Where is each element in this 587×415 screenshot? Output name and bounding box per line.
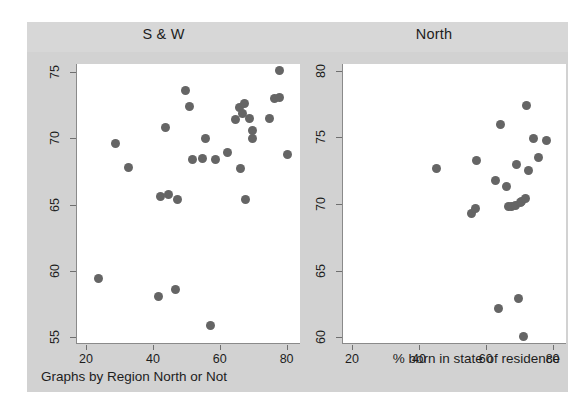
panel-title-1: S & W [27, 26, 300, 42]
plot-area-2 [342, 64, 566, 344]
data-point [154, 292, 163, 301]
x-tick-mark [419, 345, 420, 350]
x-tick-mark [352, 345, 353, 350]
y-tick-label: 60 [314, 324, 328, 350]
figure-note: Graphs by Region North or Not [41, 369, 227, 384]
y-tick-mark [70, 138, 76, 139]
data-point [223, 148, 232, 157]
data-point [432, 164, 441, 173]
y-tick-mark [336, 271, 342, 272]
y-tick-label: 80 [314, 58, 328, 84]
y-tick-mark [336, 337, 342, 338]
x-tick-mark [153, 345, 154, 350]
data-point [472, 156, 481, 165]
data-point [161, 123, 170, 132]
y-tick-label: 65 [48, 192, 62, 218]
y-tick-mark [70, 337, 76, 338]
panel-title-band-1: S & W [27, 22, 300, 52]
data-point [240, 99, 249, 108]
data-point [185, 102, 194, 111]
data-point [534, 153, 543, 162]
x-axis-title: % born in state of residence [393, 351, 560, 366]
data-point [502, 182, 511, 191]
graph-region: S & W556065707520406080North606570758020… [27, 22, 568, 392]
data-point [521, 194, 530, 203]
x-tick-label: 60 [205, 352, 235, 366]
y-tick-mark [70, 72, 76, 73]
data-point [275, 66, 284, 75]
y-tick-label: 75 [314, 124, 328, 150]
data-point [248, 134, 257, 143]
data-point [111, 139, 120, 148]
data-point [198, 154, 207, 163]
figure-canvas: S & W556065707520406080North606570758020… [0, 0, 587, 415]
data-point [124, 163, 133, 172]
data-point [275, 93, 284, 102]
y-tick-label: 70 [314, 191, 328, 217]
data-point [206, 321, 215, 330]
x-tick-mark [486, 345, 487, 350]
data-point [94, 274, 103, 283]
y-tick-label: 65 [314, 258, 328, 284]
panel-title-band-2: North [300, 22, 568, 52]
y-tick-mark [336, 204, 342, 205]
data-point [181, 86, 190, 95]
x-tick-label: 20 [337, 352, 367, 366]
data-point [171, 285, 180, 294]
y-tick-mark [70, 271, 76, 272]
x-tick-mark [287, 345, 288, 350]
data-point [471, 204, 480, 213]
y-tick-label: 55 [48, 324, 62, 350]
plot-area-1 [76, 64, 300, 344]
data-point [241, 195, 250, 204]
data-point [283, 150, 292, 159]
y-tick-label: 75 [48, 59, 62, 85]
x-tick-label: 20 [71, 352, 101, 366]
data-point [201, 134, 210, 143]
data-point [496, 120, 505, 129]
data-point [164, 190, 173, 199]
data-point [529, 134, 538, 143]
data-point [494, 304, 503, 313]
data-point [188, 155, 197, 164]
data-point [524, 166, 533, 175]
x-tick-label: 80 [272, 352, 302, 366]
y-tick-label: 70 [48, 125, 62, 151]
data-point [265, 114, 274, 123]
data-point [542, 136, 551, 145]
data-point [514, 294, 523, 303]
data-point [522, 101, 531, 110]
x-tick-mark [220, 345, 221, 350]
y-tick-mark [70, 205, 76, 206]
data-point [173, 195, 182, 204]
data-point [519, 332, 528, 341]
x-tick-mark [553, 345, 554, 350]
data-point [245, 114, 254, 123]
y-tick-label: 60 [48, 258, 62, 284]
data-point [236, 164, 245, 173]
x-tick-mark [86, 345, 87, 350]
x-tick-label: 40 [138, 352, 168, 366]
data-point [491, 176, 500, 185]
data-point [512, 160, 521, 169]
y-tick-mark [336, 137, 342, 138]
y-tick-mark [336, 71, 342, 72]
data-point [211, 155, 220, 164]
panel-title-2: North [300, 26, 568, 42]
